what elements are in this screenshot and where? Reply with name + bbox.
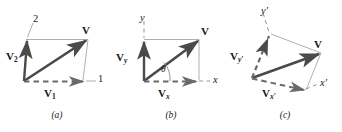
parallelogram-right-side: [83, 40, 88, 81]
resultant-vector-label: V: [201, 26, 209, 37]
resultant-vector-V: [144, 41, 198, 81]
resultant-vector-label: V: [314, 39, 322, 50]
angle-theta-label: θ: [161, 65, 166, 75]
component-Vxprime-label-subscript: x′: [270, 92, 276, 101]
component-Vyprime-label: Vy′: [230, 51, 243, 64]
panel-b-caption: (b): [114, 111, 228, 121]
component-Vxprime-label: Vx′: [262, 88, 276, 101]
vector-decomposition-figure: 2 1 V V2 V1 (a): [0, 0, 342, 132]
x-axis-label: x: [213, 75, 218, 86]
component-V2-label-base: V: [6, 50, 14, 62]
resultant-vector-label: V: [82, 25, 90, 36]
component-Vy-label: Vy: [116, 52, 127, 65]
component-vector-Vxprime: [252, 79, 304, 91]
panel-c-caption: (c): [228, 111, 342, 121]
resultant-vector-V: [252, 54, 319, 78]
panel-a: 2 1 V V2 V1 (a): [0, 0, 114, 132]
panel-a-caption: (a): [0, 111, 114, 121]
axis-2-label: 2: [33, 14, 38, 25]
x-prime-axis-label: x′: [320, 78, 327, 89]
component-Vx-label: Vx: [158, 88, 170, 101]
resultant-vector-V: [24, 41, 86, 82]
axis-1-label: 1: [98, 74, 103, 85]
component-Vy-label-subscript: y: [124, 56, 127, 65]
panel-b: y x V Vy Vx θ (b): [114, 0, 228, 132]
component-V1-label-base: V: [44, 87, 52, 99]
component-Vyprime-label-base: V: [230, 50, 238, 62]
y-axis-label: y: [140, 13, 145, 24]
y-prime-axis-label: y′: [261, 6, 268, 17]
component-Vx-label-subscript: x: [166, 92, 170, 101]
component-V1-label: V1: [44, 88, 56, 101]
component-V1-label-subscript: 1: [52, 92, 56, 101]
component-Vyprime-label-subscript: y′: [238, 55, 243, 64]
axis-2-guide-line: [28, 23, 34, 37]
component-vector-V2: [24, 41, 27, 81]
component-Vy-label-base: V: [116, 51, 124, 63]
component-Vx-label-base: V: [158, 87, 166, 99]
component-V2-label: V2: [6, 51, 18, 64]
panel-c: y′ x′ V Vy′ Vx′ (c): [228, 0, 342, 132]
component-V2-label-subscript: 2: [14, 55, 18, 64]
component-Vxprime-label-base: V: [262, 87, 270, 99]
